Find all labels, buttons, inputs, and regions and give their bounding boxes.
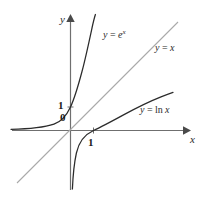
figure-container: y x 0 1 1 y = ex y = x y = lnx (0, 0, 204, 198)
y-axis-tick-label-1: 1 (58, 100, 64, 111)
exponential-curve-label: y = ex (103, 30, 126, 40)
y-axis-arrowhead (66, 14, 74, 22)
origin-label: 0 (60, 112, 66, 123)
identity-line-label: y = x (155, 43, 175, 53)
identity-label-op: = (159, 42, 170, 53)
logarithm-label-op: = (144, 104, 155, 115)
x-axis-label: x (190, 134, 195, 145)
exponential-label-exponent: x (123, 28, 126, 36)
identity-label-expr: x (170, 42, 174, 53)
y-axis-label: y (60, 14, 65, 25)
logarithm-curve-label: y = lnx (140, 105, 169, 115)
exponential-label-op: = (107, 29, 118, 40)
logarithm-label-arg: x (165, 104, 169, 115)
x-axis-tick-label-1: 1 (88, 137, 94, 148)
logarithm-label-fn: ln (155, 104, 163, 115)
exponential-curve (11, 15, 95, 130)
identity-line-curve (17, 22, 178, 183)
plot-canvas (0, 0, 204, 198)
